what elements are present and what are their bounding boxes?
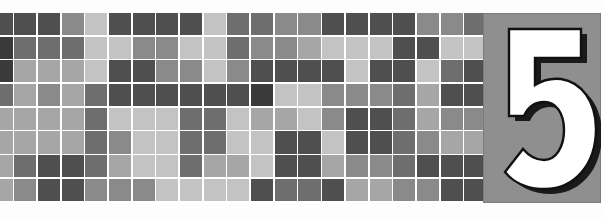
mosaic-cell [441,131,463,153]
mosaic-cell [204,131,226,153]
mosaic-cell [393,131,415,153]
mosaic-cell [441,84,463,106]
mosaic-cell [227,108,249,130]
mosaic-cell [227,131,249,153]
mosaic-cell [227,37,249,59]
mosaic-cell [85,60,107,82]
mosaic-cell [14,13,36,35]
mosaic-cell [275,84,297,106]
mosaic-cell [180,37,202,59]
mosaic-cell [393,179,415,201]
mosaic-cell [109,84,131,106]
mosaic-cell [441,179,463,201]
mosaic-cell [370,155,392,177]
mosaic-cell [227,60,249,82]
mosaic-cell [85,155,107,177]
mosaic-cell [298,131,320,153]
page-bottom-margin [0,203,606,218]
mosaic-cell [298,155,320,177]
mosaic-cell [275,155,297,177]
mosaic-cell [180,13,202,35]
mosaic-cell [204,155,226,177]
chapter-number-panel: 5 [483,13,606,203]
mosaic-cell [227,84,249,106]
mosaic-cell [109,131,131,153]
mosaic-cell [85,108,107,130]
mosaic-cell [38,37,60,59]
mosaic-cell [85,13,107,35]
page-canvas: 5 [0,0,606,218]
mosaic-cell [180,179,202,201]
mosaic-cell [370,179,392,201]
mosaic-cell [298,179,320,201]
mosaic-cell [109,60,131,82]
mosaic-cell [133,13,155,35]
mosaic-cell [133,60,155,82]
mosaic-cell [204,13,226,35]
mosaic-cell [417,155,439,177]
mosaic-cell [204,84,226,106]
mosaic-cell [370,131,392,153]
mosaic-cell [156,13,178,35]
mosaic-cell [133,37,155,59]
mosaic-cell [204,108,226,130]
mosaic-cell [62,13,84,35]
mosaic-cell [85,179,107,201]
mosaic-cell [180,108,202,130]
mosaic-cell [417,60,439,82]
mosaic-cell [441,37,463,59]
mosaic-cell [393,60,415,82]
mosaic-cell [275,37,297,59]
mosaic-cell [441,108,463,130]
mosaic-cell [133,131,155,153]
mosaic-cell [322,179,344,201]
mosaic-cell [227,155,249,177]
mosaic-cell [251,131,273,153]
mosaic-cell [251,60,273,82]
mosaic-cell [370,108,392,130]
mosaic-cell [109,108,131,130]
chapter-banner: 5 [0,13,606,203]
mosaic-cell [464,108,483,130]
mosaic-cell [251,155,273,177]
mosaic-cell [346,155,368,177]
mosaic-cell [417,108,439,130]
mosaic-cell [62,179,84,201]
mosaic-cell [156,84,178,106]
mosaic-cell [370,37,392,59]
mosaic-cell [0,37,13,59]
mosaic-cell [393,13,415,35]
mosaic-cell [156,179,178,201]
mosaic-cell [133,155,155,177]
mosaic-cell [275,60,297,82]
mosaic-cell [204,60,226,82]
mosaic-cell [322,13,344,35]
mosaic-cell [417,37,439,59]
mosaic-cell [275,108,297,130]
mosaic-cell [441,60,463,82]
mosaic-cell [62,108,84,130]
chapter-number-5-graphic: 5 [483,13,601,203]
mosaic-cell [464,37,483,59]
mosaic-cell [0,155,13,177]
mosaic-cell [441,155,463,177]
mosaic-cell [85,37,107,59]
mosaic-cell [346,84,368,106]
mosaic-cell [417,84,439,106]
mosaic-cell [464,155,483,177]
mosaic-cell [38,179,60,201]
mosaic-cell [14,179,36,201]
mosaic-cell [417,131,439,153]
mosaic-cell [464,131,483,153]
mosaic-cell [62,131,84,153]
mosaic-cell [464,84,483,106]
mosaic-cell [14,108,36,130]
mosaic-cell [62,60,84,82]
mosaic-cell [14,60,36,82]
mosaic-cell [14,131,36,153]
mosaic-cell [133,84,155,106]
mosaic-cell [251,13,273,35]
mosaic-cell [251,37,273,59]
mosaic-cell [464,60,483,82]
mosaic-cell [0,13,13,35]
